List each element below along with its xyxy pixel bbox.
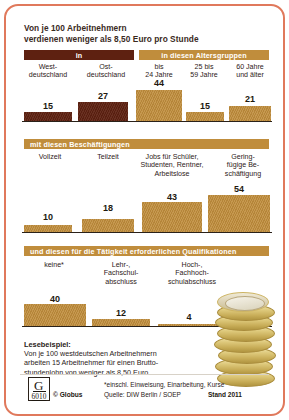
globus-logo: G 6010: [28, 377, 50, 401]
coin-glyph: 1 €: [231, 296, 243, 307]
col-label-60plus: 60 Jahre und älter: [225, 63, 275, 80]
bar-value-west: 15: [24, 101, 72, 111]
title-line-2: verdienen weniger als 8,50 Euro pro Stun…: [24, 34, 269, 45]
baseline-2: [22, 232, 272, 233]
bar-value-jobs: 43: [142, 192, 202, 202]
reading-example-line-1: Von je 100 westdeutschen Arbeitnehmern: [24, 349, 204, 358]
bar-value-lehre: 12: [92, 308, 150, 318]
reading-example-heading: Lesebeispiel:: [24, 340, 71, 349]
bar-value-vollzeit: 10: [24, 212, 72, 222]
bar-value-ost: 27: [78, 91, 128, 101]
footer-divider: [20, 374, 269, 375]
date-text: Stand 2011: [208, 391, 242, 398]
bar-geringfuegig: [208, 195, 270, 232]
col-label-geringfuegig: Gering- fügige Be- schäftigung: [214, 153, 272, 178]
band-employment: mit diesen Beschäftigungen: [24, 139, 269, 149]
band-qualifications: und diesen für die Tätigkeit erforderlic…: [24, 246, 269, 256]
infographic-frame: Von je 100 Arbeitnehmern verdienen wenig…: [4, 4, 285, 416]
col-label-25-59: 25 bis 59 Jahre: [181, 63, 227, 80]
band-age-groups: in diesen Altersgruppen: [139, 50, 269, 60]
bar-value-keine: 40: [24, 294, 86, 304]
col-label-lehre: Lehr-, Fachschul- abschluss: [90, 261, 152, 286]
bar-value-bis24: 44: [136, 78, 182, 88]
bar-25-59: [186, 112, 224, 121]
bar-bis24: [136, 90, 182, 121]
bar-value-60plus: 21: [229, 94, 271, 104]
bar-west: [24, 112, 72, 121]
page-title: Von je 100 Arbeitnehmern verdienen wenig…: [24, 23, 269, 44]
bar-ost: [78, 102, 128, 121]
bar-60plus: [229, 106, 271, 121]
col-label-west: West- deutschland: [20, 63, 76, 80]
bar-jobs: [142, 202, 202, 232]
col-label-jobs: Jobs für Schüler, Studenten, Rentner, Ar…: [134, 153, 210, 178]
bar-vollzeit: [24, 225, 72, 232]
copyright-text: © Globus: [53, 391, 82, 398]
bar-value-teilzeit: 18: [82, 203, 134, 213]
footnote-text: *einschl. Einweisung, Einarbeitung, Kurs…: [104, 381, 224, 388]
infographic-body: Von je 100 Arbeitnehmern verdienen wenig…: [6, 6, 283, 414]
band-in: in: [24, 50, 134, 60]
reading-example: Lesebeispiel: Von je 100 westdeutschen A…: [24, 340, 204, 377]
title-line-1: Von je 100 Arbeitnehmern: [24, 23, 269, 34]
col-label-keine: keine*: [22, 261, 86, 269]
bar-teilzeit: [82, 219, 134, 232]
col-label-vollzeit: Vollzeit: [22, 153, 78, 161]
reading-example-line-3: stundenlohn von weniger als 8,50 Euro.: [24, 368, 204, 377]
reading-example-line-2: arbeiten 15 Arbeitnehmer für einen Brutt…: [24, 358, 204, 367]
globus-logo-number: 6010: [29, 392, 49, 401]
col-label-teilzeit: Teilzeit: [82, 153, 134, 161]
col-label-ost: Ost- deutschland: [78, 63, 134, 80]
bar-lehre: [92, 319, 150, 326]
source-text: Quelle: DIW Berlin / SOEP: [104, 391, 181, 398]
baseline-1: [22, 121, 272, 122]
bar-value-geringfuegig: 54: [208, 184, 270, 194]
bar-value-25-59: 15: [186, 101, 224, 111]
bar-keine: [24, 304, 86, 326]
col-label-hochschule: Hoch-, Fachhoch- schulabschluss: [154, 261, 230, 286]
